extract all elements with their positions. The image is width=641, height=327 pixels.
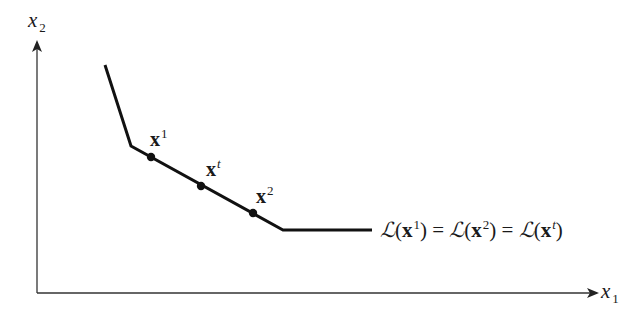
equals-1: =: [432, 218, 444, 242]
label-x2: x2: [256, 185, 274, 208]
script-l-3: ℒ: [519, 218, 534, 242]
x-axis-label-subscript: 1: [612, 291, 619, 306]
label-x2-base: x: [256, 185, 266, 207]
x-axis-label: x1: [601, 279, 619, 304]
y-axis-label: x2: [28, 8, 46, 33]
label-xt: xt: [206, 158, 221, 181]
label-x1-base: x: [150, 128, 160, 150]
label-x2-sup: 2: [267, 183, 274, 198]
y-axis-label-base: x: [28, 8, 37, 32]
level-set-equation: ℒ(x1) = ℒ(x2) = ℒ(xt): [380, 218, 563, 243]
eq-term1-base: x: [402, 218, 413, 242]
label-x1-sup: 1: [161, 126, 168, 141]
script-l-1: ℒ: [380, 218, 395, 242]
label-x1: x1: [150, 128, 168, 151]
equals-2: =: [502, 218, 514, 242]
script-l-2: ℒ: [449, 218, 464, 242]
eq-term2-base: x: [471, 218, 482, 242]
diagram-canvas: [0, 0, 641, 327]
y-axis-label-subscript: 2: [39, 20, 46, 35]
eq-term3-sup: t: [552, 217, 556, 232]
point-xt: [197, 182, 205, 190]
eq-term3-base: x: [541, 218, 552, 242]
label-xt-base: x: [206, 158, 216, 180]
eq-term2-sup: 2: [483, 217, 490, 232]
point-x2: [249, 209, 257, 217]
label-xt-sup: t: [217, 156, 221, 171]
eq-term1-sup: 1: [414, 217, 421, 232]
x-axis-label-base: x: [601, 279, 610, 303]
indifference-curve: [105, 65, 372, 230]
point-x1: [147, 153, 155, 161]
